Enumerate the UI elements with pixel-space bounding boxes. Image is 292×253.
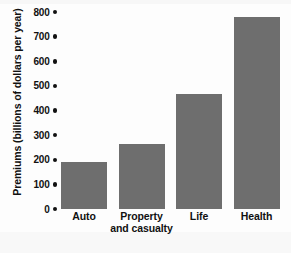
bar-health xyxy=(234,17,280,209)
y-axis-tick-label: 400 xyxy=(33,105,49,116)
y-axis-tick-label: 600 xyxy=(33,56,49,67)
y-axis-tick-dot-icon xyxy=(53,84,58,89)
y-axis-tick-dot-icon xyxy=(53,108,58,113)
y-axis-tick-dot-icon xyxy=(53,34,58,39)
y-axis-tick-600: 600 xyxy=(33,55,60,67)
y-axis-tick-label: 700 xyxy=(33,31,49,42)
y-axis-tick-dot-icon xyxy=(53,10,58,15)
y-axis-tick-400: 400 xyxy=(33,105,60,117)
bar-life xyxy=(176,94,222,209)
x-axis-label-line: Health xyxy=(220,211,292,223)
y-axis-tick-800: 800 xyxy=(33,6,60,18)
y-axis-tick-label: 300 xyxy=(33,130,49,141)
bar-property-and-casualty xyxy=(119,144,165,209)
y-axis-tick-label: 200 xyxy=(33,154,49,165)
y-axis-tick-500: 500 xyxy=(33,80,60,92)
y-axis-tick-700: 700 xyxy=(33,31,60,43)
y-axis-tick-300: 300 xyxy=(33,129,60,141)
y-axis-tick-label: 500 xyxy=(33,80,49,91)
y-axis-tick-label: 100 xyxy=(33,179,49,190)
x-axis-label-line: and casualty xyxy=(105,223,179,235)
y-axis-tick-100: 100 xyxy=(33,178,60,190)
y-axis-tick-dot-icon xyxy=(53,133,58,138)
y-axis-tick-dot-icon xyxy=(53,182,58,187)
x-axis-label-health: Health xyxy=(220,211,292,223)
y-axis-tick-label: 800 xyxy=(33,7,49,18)
y-axis-tick-dot-icon xyxy=(53,59,58,64)
bar-chart: Premiums (billions of dollars per year) … xyxy=(0,0,291,253)
plot-area: AutoPropertyand casualtyLifeHealth xyxy=(60,0,291,253)
y-axis-tick-200: 200 xyxy=(33,154,60,166)
y-axis-tick-dot-icon xyxy=(53,158,58,163)
bar-auto xyxy=(61,162,107,209)
